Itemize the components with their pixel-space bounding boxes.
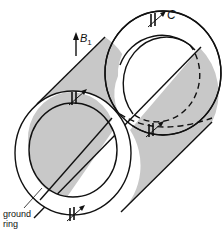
b1-label: B1 [80,32,92,47]
resonator-diagram: B1 C ground ring [0,0,224,229]
capacitor-label: C [167,8,176,22]
ground-ring-label-2: ring [3,219,18,229]
b1-field-arrow [73,32,79,56]
ground-ring-label-1: ground [3,209,31,219]
